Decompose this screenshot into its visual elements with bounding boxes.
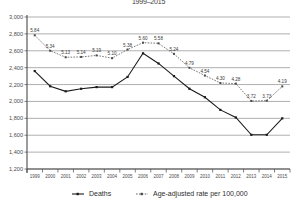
rate-data-label: 5.38 [123,43,132,48]
legend-rate-label: Age-adjusted rate per 100,000 [153,190,248,198]
x-axis-tick-label: 1999 [30,174,41,179]
legend-deaths-label: Deaths [89,190,112,197]
x-axis-tick-label: 2008 [169,174,180,179]
rate-data-label: 5.13 [61,50,70,55]
rate-data-label: 4.19 [278,79,287,84]
x-axis-tick-label: 2007 [153,174,164,179]
x-axis-tick-label: 2000 [45,174,56,179]
rate-data-label: 4.30 [216,76,225,81]
x-axis-tick-label: 2003 [92,174,103,179]
y-axis-tick-label: 1,400 [9,149,23,155]
x-axis-tick-label: 2013 [246,174,257,179]
rate-data-label: 5.10 [108,51,117,56]
rate-data-label: 5.24 [169,47,178,52]
rate-data-label: 4.79 [185,61,194,66]
rate-data-label: 5.19 [92,48,101,53]
x-axis-tick-label: 2005 [123,174,134,179]
rate-data-label: 5.58 [154,36,163,41]
y-axis-tick-label: 2,000 [9,98,23,104]
x-axis-tick-label: 2012 [231,174,242,179]
chart-legend: DeathsAge-adjusted rate per 100,000 [72,190,248,198]
x-axis-tick-label: 2010 [200,174,211,179]
y-axis-tick-label: 2,200 [9,82,23,88]
x-axis-labels: 1999200020012002200320042005200620072008… [30,174,288,179]
y-axis-tick-label: 3,000 [9,14,23,20]
chart-plot-area: 1,2001,4001,6001,8002,0002,2002,4002,600… [0,0,297,204]
y-axis-tick-label: 1,800 [9,115,23,121]
rate-data-label: 5.84 [30,28,39,33]
y-axis-tick-label: 1,600 [9,132,23,138]
chart-container: 1999–2015 1,2001,4001,6001,8002,0002,200… [0,0,297,204]
x-axis-tick-label: 2001 [61,174,72,179]
x-axis-tick-label: 2004 [107,174,118,179]
y-axis-tick-label: 1,200 [9,166,23,172]
series-age-adjusted-rate [34,34,284,102]
y-axis-tick-label: 2,600 [9,48,23,54]
x-axis-tick-label: 2011 [216,174,226,179]
y-axis-tick-label: 2,800 [9,31,23,37]
rate-data-label: 5.34 [46,44,55,49]
rate-data-label: 3.73 [262,94,271,99]
x-axis-tick-label: 2006 [138,174,149,179]
y-axis-tick-label: 2,400 [9,65,23,71]
rate-data-label: 4.28 [231,77,240,82]
x-axis-tick-label: 2014 [262,174,273,179]
rate-data-label: 5.60 [139,36,148,41]
rate-data-label: 4.54 [200,69,209,74]
x-axis-tick-label: 2002 [76,174,87,179]
rate-data-label: 5.14 [77,50,86,55]
rate-data-label: 3.72 [247,94,256,99]
x-axis-tick-label: 2015 [277,174,288,179]
x-axis-tick-label: 2009 [184,174,195,179]
y-axis-labels: 1,2001,4001,6001,8002,0002,2002,4002,600… [9,14,23,172]
